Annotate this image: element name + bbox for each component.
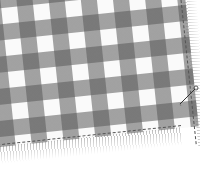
gingham-cloth <box>0 0 199 147</box>
needle-icon <box>178 84 200 106</box>
fabric-scene <box>0 0 200 174</box>
